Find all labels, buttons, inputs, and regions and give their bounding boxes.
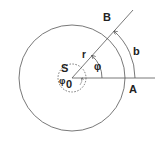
label-phi-zero-sub: 0 (66, 78, 72, 90)
label-arc-b: b (133, 45, 140, 57)
label-radius: r (82, 49, 86, 60)
label-small-circle: S (61, 62, 68, 74)
label-phi-zero-phi: φ (59, 76, 66, 86)
arc-phi-zero (80, 78, 82, 85)
label-point-a: A (129, 83, 137, 95)
geometry-diagram: B b A r φ S φ 0 (0, 0, 160, 146)
label-angle-phi: φ (94, 61, 101, 72)
label-point-b: B (103, 11, 111, 23)
